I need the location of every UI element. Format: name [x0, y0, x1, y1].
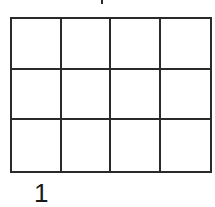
grid-cell	[161, 19, 211, 70]
grid-cell	[161, 70, 211, 121]
grid-cell	[12, 19, 62, 70]
grid-cell	[12, 70, 62, 121]
grid-cell	[62, 70, 112, 121]
grid-cell	[12, 120, 62, 171]
grid-cell	[111, 19, 161, 70]
figure-label: 1	[34, 180, 48, 206]
grid-cell	[161, 120, 211, 171]
grid-cell	[111, 120, 161, 171]
grid-cell	[111, 70, 161, 121]
top-edge-mark	[101, 0, 103, 4]
grid-cell	[62, 120, 112, 171]
grid-diagram	[10, 17, 212, 173]
grid-cell	[62, 19, 112, 70]
